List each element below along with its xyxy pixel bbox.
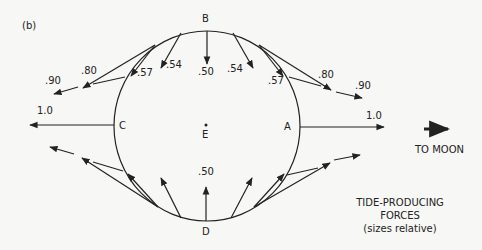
force-arrow-top-right-080b: [289, 77, 321, 86]
force-arrow-bottom-right-057: [254, 174, 284, 207]
force-arrow-bottom-left-054: [161, 178, 181, 218]
point-label-e: E: [202, 130, 208, 140]
force-label-bottom-center: .50: [198, 167, 214, 177]
force-arrow-top-left-090: [54, 87, 78, 94]
point-label-d: D: [202, 227, 210, 237]
force-arrow-bottom-right-080b: [287, 168, 318, 175]
force-arrow-top-left-080b: [93, 77, 125, 84]
caption-line-1: TIDE-PRODUCING: [335, 196, 465, 209]
point-label-a: A: [284, 122, 291, 132]
force-label-top-left-090: .90: [45, 76, 61, 86]
point-label-c: C: [119, 121, 126, 131]
caption-line-2: FORCES: [335, 209, 465, 222]
force-label-top-right-090: .90: [355, 81, 371, 91]
force-arrow-bottom-right-054: [231, 178, 252, 218]
force-arrow-bottom-left-080b: [93, 162, 123, 171]
force-label-top-right-054: .54: [227, 64, 243, 74]
caption: TIDE-PRODUCING FORCES (sizes relative): [335, 196, 465, 235]
force-label-top-right-080: .80: [318, 70, 334, 80]
panel-label: (b): [22, 21, 36, 31]
center-point: [205, 124, 208, 127]
force-label-top-left-054: .54: [166, 60, 182, 70]
force-arrow-top-right-057: [259, 45, 283, 76]
force-label-top-left-080: .80: [81, 66, 97, 76]
to-moon-label: TO MOON: [415, 145, 464, 155]
force-arrow-bottom-right-090: [334, 155, 360, 160]
force-arrow-bottom-left-090: [50, 147, 74, 154]
force-label-top-right-057: .57: [268, 76, 284, 86]
force-label-top-left-057: .57: [137, 68, 153, 78]
force-arrow-bottom-left-080a: [82, 158, 158, 207]
force-arrow-bottom-right-080a: [254, 163, 330, 207]
caption-line-3: (sizes relative): [335, 222, 465, 235]
force-label-right-10: 1.0: [366, 111, 382, 121]
force-arrow-top-right-090: [336, 92, 362, 98]
force-label-top-center: .50: [198, 67, 214, 77]
force-label-left-10: 1.0: [37, 106, 53, 116]
point-label-b: B: [202, 14, 209, 24]
